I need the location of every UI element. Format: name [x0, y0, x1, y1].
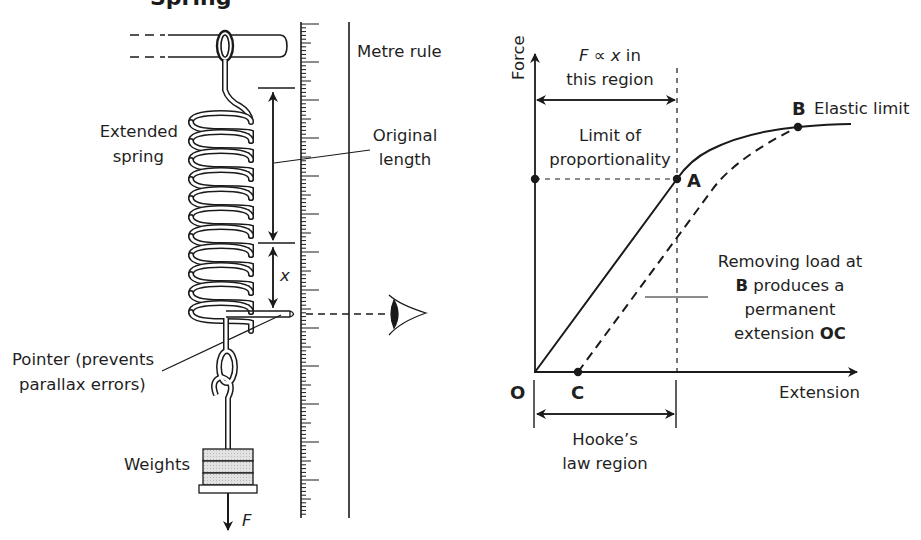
hookes-law-bracket: [534, 380, 676, 428]
original-length-label-2: length: [370, 148, 440, 172]
eye-icon: [389, 295, 426, 335]
weights-label: Weights: [124, 453, 190, 477]
original-length-label-1: Original: [370, 124, 440, 148]
limit-proportionality-label-2: proportionality: [545, 148, 675, 172]
clamp-rod: [130, 31, 287, 61]
removing-load-label-2: B produces a: [700, 274, 880, 298]
removing-line2-rest: produces a: [748, 276, 844, 295]
point-a-label: A: [687, 169, 701, 193]
removing-load-label-3: permanent: [700, 298, 880, 322]
spring-coil: [191, 113, 251, 331]
pointer-label-2: parallax errors): [19, 373, 146, 397]
figure-title-fragment: Spring: [150, 0, 231, 10]
pointer-label-1: Pointer (prevents: [12, 348, 154, 372]
point-a: [673, 175, 681, 183]
point-c: [574, 368, 582, 376]
point-b: [794, 123, 802, 131]
removing-b-bold: B: [736, 276, 749, 295]
metre-rule-label: Metre rule: [357, 40, 442, 64]
hookes-law-label-2: law region: [555, 452, 655, 476]
weights-stack: [199, 449, 257, 493]
extension-x-label: x: [280, 264, 290, 288]
removing-load-label-4: extension OC: [700, 322, 880, 346]
extended-spring-label-2: spring: [60, 145, 164, 169]
x-axis-label: Extension: [779, 381, 860, 405]
removing-load-label-1: Removing load at: [700, 250, 880, 274]
proportional-label-1: F ∝ x in: [560, 44, 660, 68]
extended-spring-label-1: Extended: [60, 120, 178, 144]
point-b-label: B: [792, 97, 806, 121]
original-length-dimension: [258, 88, 370, 308]
limit-proportionality-label-1: Limit of: [545, 124, 675, 148]
removing-oc-bold: OC: [820, 324, 846, 343]
proportional-label-2: this region: [560, 68, 660, 92]
hookes-law-label-1: Hooke’s: [555, 428, 655, 452]
force-f-label: F: [242, 509, 252, 533]
metre-rule: [301, 22, 349, 518]
elastic-limit-label: Elastic limit: [814, 97, 909, 121]
removing-line4-rest: extension: [734, 324, 820, 343]
point-c-label: C: [571, 381, 584, 405]
origin-label: O: [510, 381, 525, 405]
guide-lines: [535, 68, 677, 372]
force-axis-point: [531, 175, 539, 183]
y-axis-label: Force: [507, 35, 531, 80]
